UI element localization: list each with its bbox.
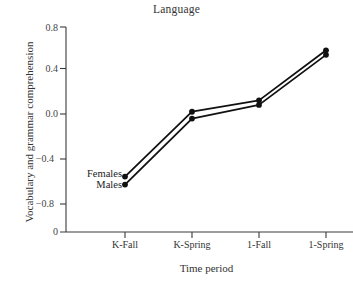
plot-area: [0, 0, 353, 283]
data-point-females-k-spring: [189, 109, 195, 115]
data-point-females-k-fall: [122, 174, 128, 180]
data-point-males-1-spring: [323, 52, 329, 58]
data-point-males-1-fall: [256, 102, 262, 108]
series-line-females: [125, 50, 326, 176]
series-line-males: [125, 55, 326, 185]
language-line-chart: Language Vocabulary and grammar comprehe…: [0, 0, 353, 283]
data-point-males-k-fall: [122, 182, 128, 188]
data-point-males-k-spring: [189, 116, 195, 122]
series-layer: [122, 47, 329, 187]
